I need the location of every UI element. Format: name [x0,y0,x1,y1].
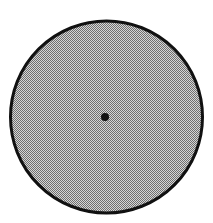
circle-figure-svg [0,0,213,223]
figure-canvas [0,0,213,223]
center-dot [101,113,109,121]
